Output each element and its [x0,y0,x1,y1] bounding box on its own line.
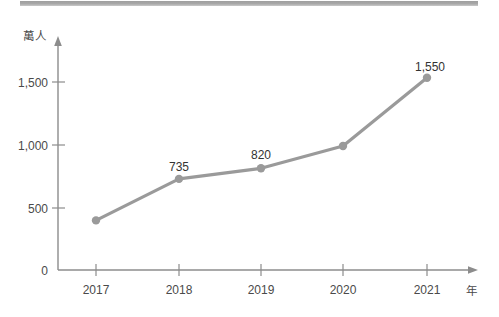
y-tick-label-1000: 1,000 [2,139,48,153]
data-point-2020 [339,142,347,150]
x-axis-unit-label: 年 [466,282,478,298]
x-axis-arrow-icon [468,266,478,274]
y-tick-label-0: 0 [2,264,48,278]
x-tick-label-2018: 2018 [154,283,204,297]
y-tick-label-1500: 1,500 [2,76,48,90]
data-label-2018: 735 [149,160,209,174]
y-axis-unit-label: 萬人 [23,27,46,43]
data-point-2021 [423,74,431,82]
data-label-2021: 1,550 [400,60,460,74]
x-tick-label-2019: 2019 [236,283,286,297]
data-point-2018 [175,175,183,183]
chart-screenshot: 萬人 年 1,500 1,000 500 0 2017 2018 2019 20… [0,0,499,317]
x-tick-label-2021: 2021 [402,283,452,297]
y-axis-arrow-icon [54,36,62,46]
data-point-2019 [257,164,265,172]
y-tick-label-500: 500 [2,202,48,216]
data-point-2017 [92,216,100,224]
x-tick-label-2020: 2020 [318,283,368,297]
x-tick-label-2017: 2017 [71,283,121,297]
data-label-2019: 820 [231,148,291,162]
line-chart: 萬人 年 1,500 1,000 500 0 2017 2018 2019 20… [0,0,499,317]
